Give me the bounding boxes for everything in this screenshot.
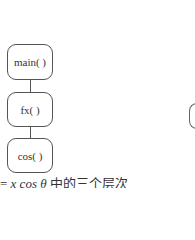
node-main: main( ) bbox=[7, 44, 53, 80]
caption-suffix: 中的三个层次 bbox=[47, 176, 128, 188]
partial-node-right bbox=[189, 103, 195, 129]
diagram-caption: = x cos θ 中的三个层次 bbox=[0, 176, 128, 188]
node-cos-label: cos( ) bbox=[18, 150, 43, 162]
caption-math: x cos θ bbox=[11, 176, 47, 188]
node-fx: fx( ) bbox=[7, 92, 53, 127]
edge-fx-cos bbox=[30, 127, 31, 138]
node-main-label: main( ) bbox=[14, 56, 46, 68]
node-fx-label: fx( ) bbox=[20, 104, 39, 116]
node-cos: cos( ) bbox=[7, 138, 53, 173]
caption-prefix: = bbox=[0, 176, 11, 188]
edge-main-fx bbox=[30, 80, 31, 92]
